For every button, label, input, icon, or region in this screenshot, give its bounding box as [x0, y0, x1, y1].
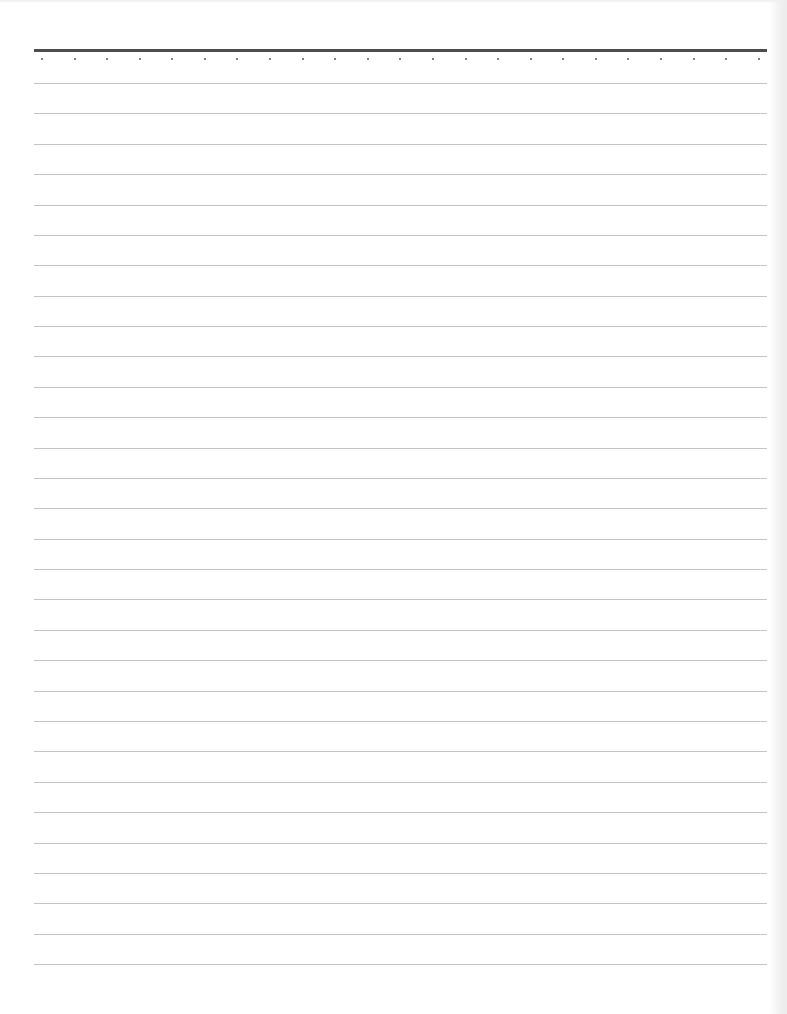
ruled-line	[34, 265, 767, 266]
ruled-line	[34, 843, 767, 844]
ruled-line	[34, 964, 767, 965]
ruled-line	[34, 174, 767, 175]
ruled-line	[34, 539, 767, 540]
ruled-line	[34, 751, 767, 752]
ruled-line	[34, 903, 767, 904]
ruled-line	[34, 599, 767, 600]
ruled-line	[34, 326, 767, 327]
ruled-line	[34, 144, 767, 145]
ruled-line	[34, 660, 767, 661]
ruled-line	[34, 417, 767, 418]
ruled-line	[34, 934, 767, 935]
ruled-line	[34, 356, 767, 357]
ruled-line	[34, 478, 767, 479]
ruled-line	[34, 508, 767, 509]
ruled-line	[34, 387, 767, 388]
ruled-line	[34, 812, 767, 813]
ruled-line	[34, 630, 767, 631]
ruled-line	[34, 83, 767, 84]
ruled-line	[34, 782, 767, 783]
ruled-line	[34, 691, 767, 692]
ruled-line	[34, 448, 767, 449]
ruled-line	[34, 873, 767, 874]
notebook-page	[0, 0, 787, 1014]
ruled-line	[34, 296, 767, 297]
ruled-line	[34, 205, 767, 206]
ruled-line	[34, 569, 767, 570]
ruled-line	[34, 721, 767, 722]
scan-right-edge-shadow	[769, 0, 787, 1014]
ruled-line	[34, 235, 767, 236]
ruled-line	[34, 113, 767, 114]
ruled-lines	[0, 0, 787, 1014]
